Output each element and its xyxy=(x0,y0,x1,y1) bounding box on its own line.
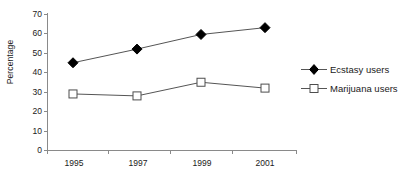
data-point xyxy=(132,44,142,54)
data-point xyxy=(261,84,269,92)
data-point xyxy=(69,90,77,98)
data-point xyxy=(196,29,206,39)
data-point xyxy=(68,58,78,68)
data-point xyxy=(133,92,141,100)
series-marijuana-users xyxy=(69,78,269,100)
legend-label: Ecstasy users xyxy=(330,64,389,75)
data-point xyxy=(260,23,270,33)
series-ecstasy-users xyxy=(68,23,270,68)
legend-item-marijuana-users: Marijuana users xyxy=(300,79,405,98)
legend-item-ecstasy-users: Ecstasy users xyxy=(300,60,405,79)
filled-diamond-icon xyxy=(300,60,328,79)
data-point xyxy=(197,78,205,86)
chart-legend: Ecstasy users Marijuana users xyxy=(300,60,405,98)
line-chart: Percentage 70 60 50 40 30 20 10 0 1995 1… xyxy=(0,0,405,185)
open-square-icon xyxy=(300,79,328,98)
legend-label: Marijuana users xyxy=(330,83,398,94)
